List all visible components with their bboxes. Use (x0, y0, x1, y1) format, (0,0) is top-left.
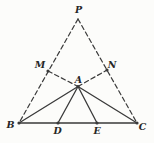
segment-A-B (19, 87, 78, 124)
point-A (76, 85, 79, 88)
label-B: B (5, 119, 14, 130)
label-M: M (34, 59, 46, 70)
point-B (17, 121, 20, 124)
label-E: E (92, 125, 101, 136)
triangle-diagram-svg: PMNABDEC (0, 0, 154, 143)
segment-A-N (78, 70, 107, 87)
label-P: P (74, 4, 83, 15)
label-D: D (52, 125, 62, 136)
geometry-figure: PMNABDEC (0, 0, 154, 143)
label-C: C (139, 121, 147, 132)
segment-M-A (48, 71, 78, 87)
point-M (46, 69, 49, 72)
label-N: N (107, 59, 117, 70)
label-A: A (74, 74, 82, 85)
